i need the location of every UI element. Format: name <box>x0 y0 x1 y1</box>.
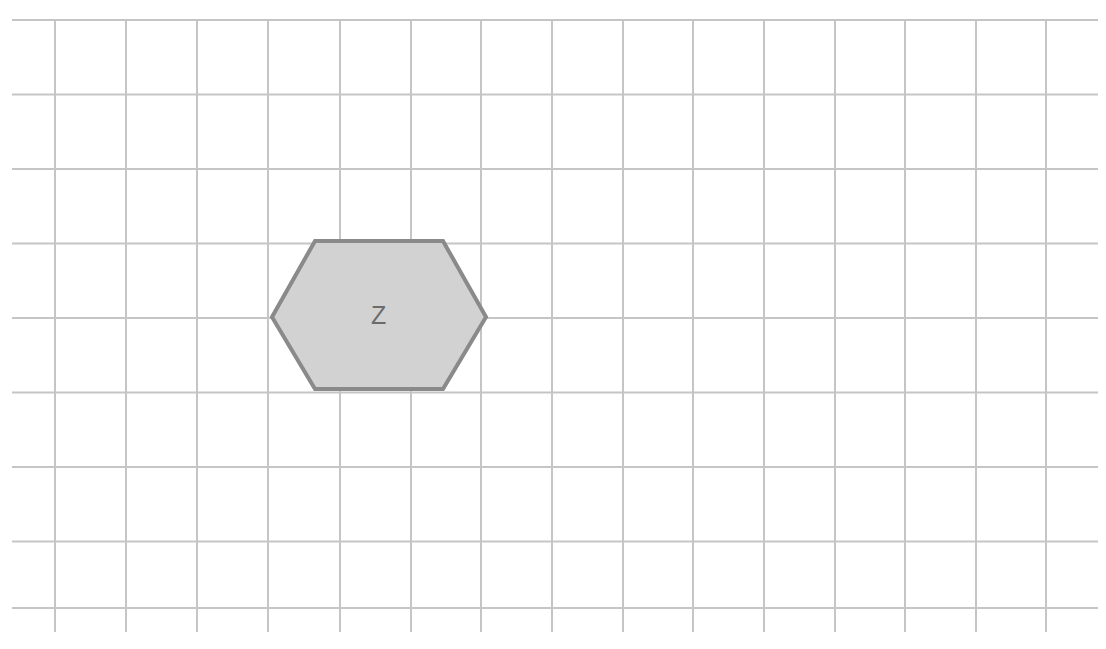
grid-background <box>0 0 1106 649</box>
grid-paper-canvas: Z <box>0 0 1106 649</box>
grid-vertical-lines <box>55 20 1046 632</box>
grid-horizontal-lines <box>12 20 1098 608</box>
